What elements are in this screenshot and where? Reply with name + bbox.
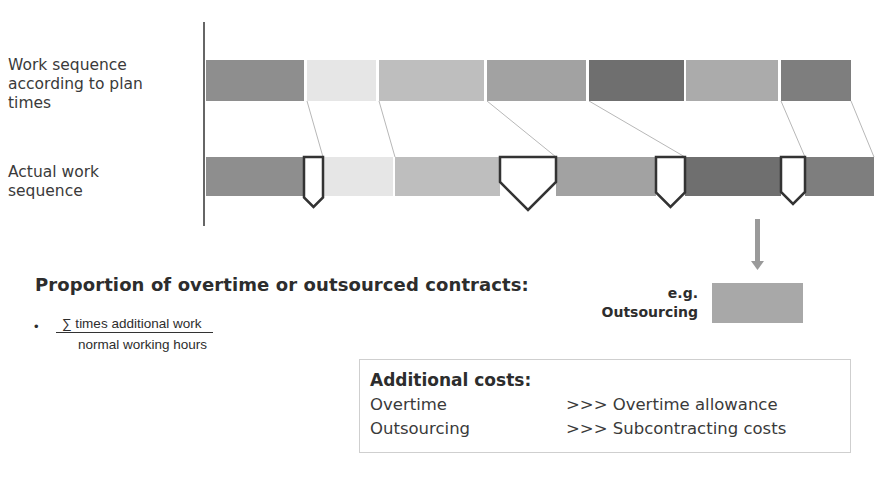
planned-task-bar [589,60,684,101]
planned-task-bar [686,60,778,101]
planned-task-bar [307,60,376,101]
down-arrow-icon [751,219,764,270]
actual-task-bar [805,157,874,196]
planned-sequence-bars [206,60,851,101]
cost-item-overtime: Overtime [370,395,447,414]
cost-item-outsourcing: Outsourcing [370,419,470,438]
formula-denominator: normal working hours [78,337,207,352]
connector-line [851,101,874,157]
formula-numerator: ∑ times additional work [56,316,213,333]
planned-task-bar [781,60,851,101]
connector-lines [307,101,874,157]
cost-result-outsourcing: >>> Subcontracting costs [566,419,786,438]
actual-task-bar [395,157,500,196]
additional-work-pentagon-icon [304,157,323,207]
example-label: e.g. Outsourcing [560,284,698,322]
connector-line [781,101,805,157]
connector-line [589,101,685,157]
connector-line [307,101,323,157]
connector-line [487,101,556,157]
outsourcing-example-box [712,283,803,323]
actual-task-bar [556,157,656,196]
additional-costs-title: Additional costs: [370,370,531,390]
planned-task-bar [206,60,304,101]
example-eg-text: e.g. [560,284,698,303]
additional-work-pentagon-icon [781,157,805,204]
actual-task-bar [323,157,393,196]
additional-costs-box: Additional costs: Overtime >>> Overtime … [359,359,851,453]
bullet: • [34,319,39,334]
cost-result-overtime: >>> Overtime allowance [566,395,778,414]
planned-task-bar [487,60,586,101]
planned-task-bar [379,60,484,101]
connector-line [379,101,395,157]
actual-task-bar [206,157,304,196]
example-outsourcing-text: Outsourcing [560,303,698,322]
additional-work-pentagon-icon [656,157,685,207]
proportion-heading: Proportion of overtime or outsourced con… [35,274,529,295]
actual-task-bar [685,157,781,196]
additional-work-pentagon-icon [500,157,556,210]
